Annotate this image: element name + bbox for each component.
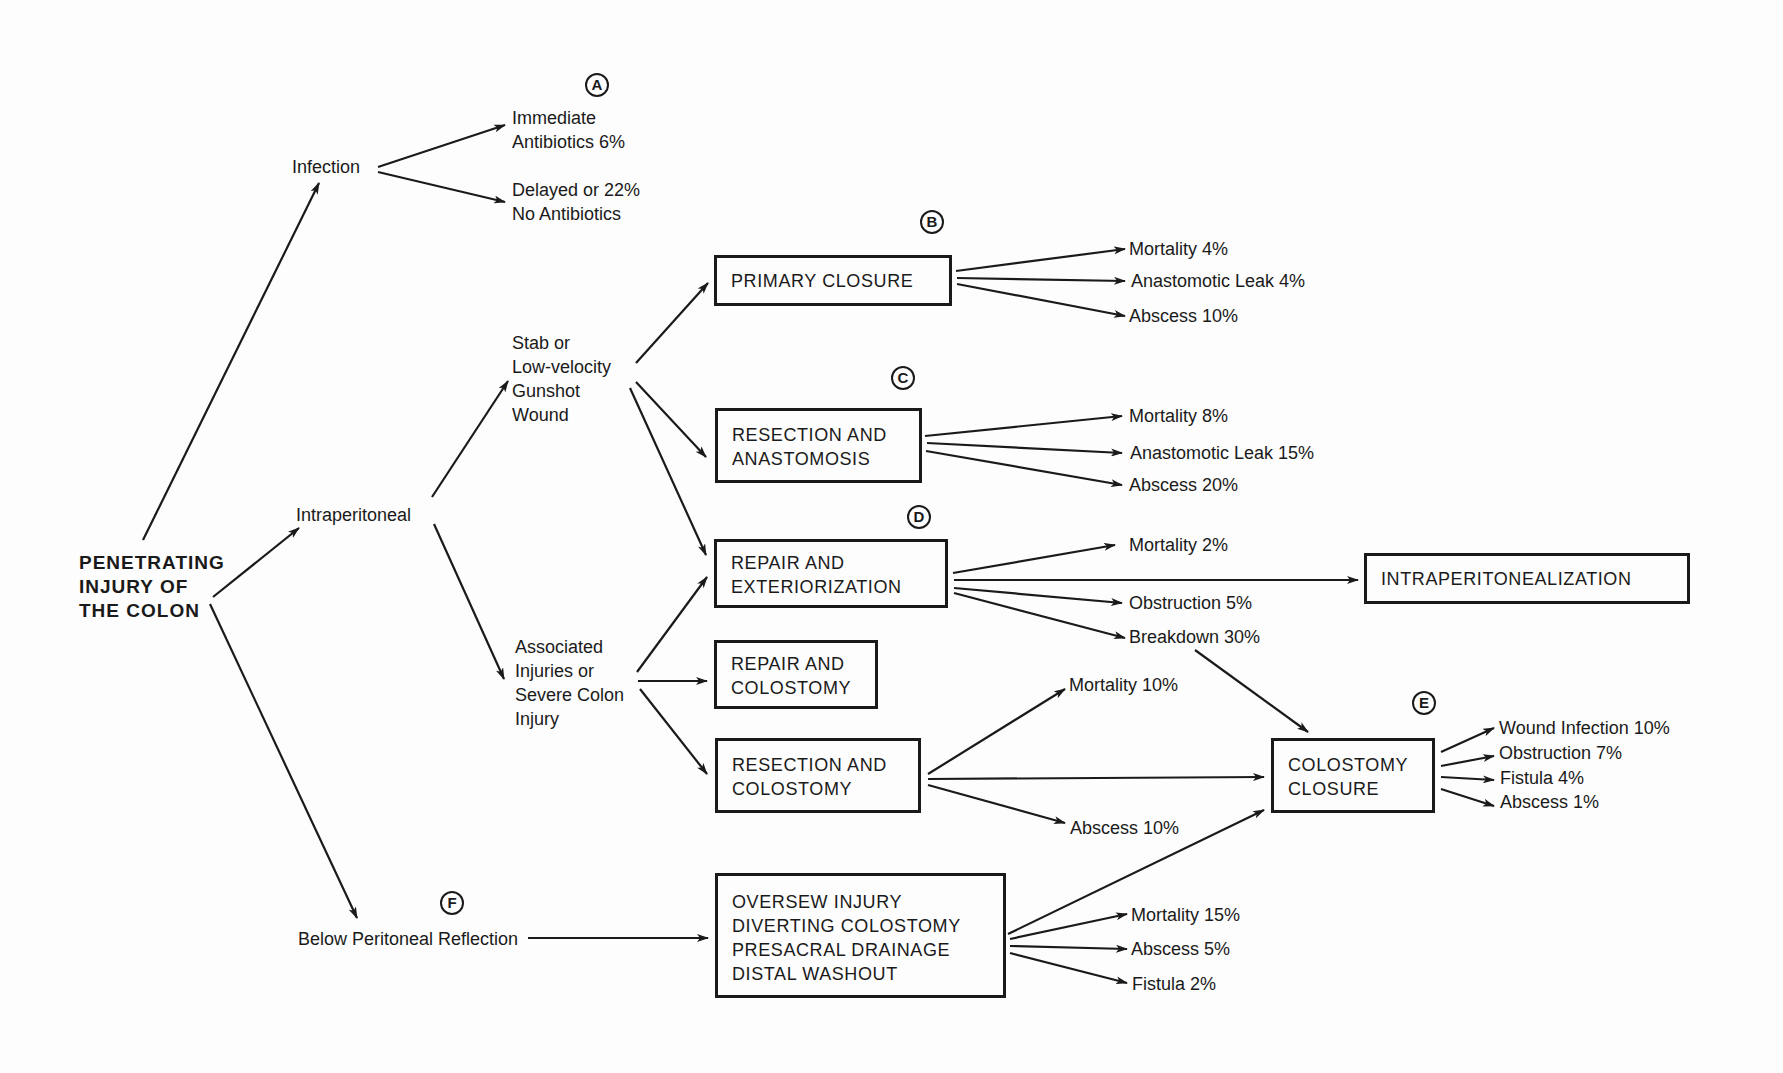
box-intraperitonealization: INTRAPERITONEALIZATION	[1364, 553, 1690, 604]
outcome-label: Abscess 10%	[1070, 816, 1179, 840]
outcome-label: Mortality 4%	[1129, 237, 1228, 261]
outcome-label: Abscess 1%	[1500, 790, 1599, 814]
box-oversew-injury: OVERSEW INJURY DIVERTING COLOSTOMY PRESA…	[715, 873, 1006, 998]
outcome-label: Mortality 2%	[1129, 533, 1228, 557]
box-primary-closure: PRIMARY CLOSURE	[714, 255, 952, 306]
branch-infection: Infection	[292, 155, 360, 179]
outcome-label: Fistula 4%	[1500, 766, 1584, 790]
outcome-label: Abscess 5%	[1131, 937, 1230, 961]
branch-below-peritoneal-reflection: Below Peritoneal Reflection	[298, 927, 518, 951]
marker-b: B	[920, 210, 944, 234]
box-resection-anastomosis: RESECTION AND ANASTOMOSIS	[715, 408, 922, 483]
box-repair-colostomy: REPAIR AND COLOSTOMY	[714, 640, 878, 709]
outcome-delayed-antibiotics: Delayed or 22% No Antibiotics	[512, 178, 640, 226]
outcome-label: Wound Infection 10%	[1499, 716, 1670, 740]
outcome-label: Mortality 15%	[1131, 903, 1240, 927]
marker-d: D	[907, 505, 931, 529]
outcome-label: Mortality 8%	[1129, 404, 1228, 428]
outcome-label: Obstruction 5%	[1129, 591, 1252, 615]
outcome-label: Anastomotic Leak 4%	[1131, 269, 1305, 293]
box-resection-colostomy: RESECTION AND COLOSTOMY	[715, 738, 921, 813]
outcome-label: Breakdown 30%	[1129, 625, 1260, 649]
marker-c: C	[891, 366, 915, 390]
box-colostomy-closure: COLOSTOMY CLOSURE	[1271, 738, 1435, 813]
outcome-label: Obstruction 7%	[1499, 741, 1622, 765]
marker-f: F	[440, 891, 464, 915]
marker-e: E	[1412, 691, 1436, 715]
box-repair-exteriorization: REPAIR AND EXTERIORIZATION	[714, 539, 948, 608]
wound-type-associated: Associated Injuries or Severe Colon Inju…	[515, 635, 624, 731]
outcome-label: Abscess 10%	[1129, 304, 1238, 328]
branch-intraperitoneal: Intraperitoneal	[296, 503, 411, 527]
outcome-label: Fistula 2%	[1132, 972, 1216, 996]
outcome-label: Anastomotic Leak 15%	[1130, 441, 1314, 465]
outcome-label: Mortality 10%	[1069, 673, 1178, 697]
wound-type-stab: Stab or Low-velocity Gunshot Wound	[512, 331, 611, 427]
outcome-immediate-antibiotics: Immediate Antibiotics 6%	[512, 106, 625, 154]
marker-a: A	[585, 73, 609, 97]
root-penetrating-injury: PENETRATING INJURY OF THE COLON	[79, 551, 225, 623]
flowchart-canvas: PENETRATING INJURY OF THE COLON Infectio…	[0, 0, 1783, 1073]
outcome-label: Abscess 20%	[1129, 473, 1238, 497]
